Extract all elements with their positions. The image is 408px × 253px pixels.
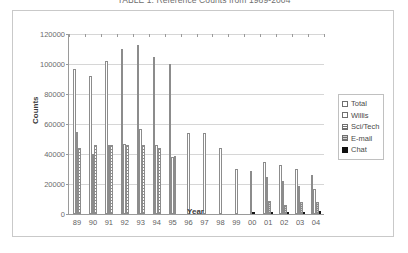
- x-axis-tick-label: 90: [89, 218, 97, 227]
- legend-item: Chat: [342, 144, 379, 156]
- x-axis-tick-mark: [117, 34, 118, 37]
- legend-swatch-icon: [342, 112, 348, 118]
- bar-group: [69, 34, 85, 214]
- x-axis-tick-label: 93: [137, 218, 145, 227]
- bar: [203, 133, 206, 214]
- y-axis-tick-label: 20000: [44, 180, 65, 189]
- bar-group: [181, 34, 197, 214]
- bar: [126, 145, 129, 214]
- x-axis-tick-mark: [197, 34, 198, 37]
- bar-group: [85, 34, 101, 214]
- x-axis-tick-label: 98: [216, 218, 224, 227]
- x-axis-tick-mark: [85, 34, 86, 37]
- y-axis-label: Counts: [31, 96, 40, 124]
- x-axis-tick-label: 95: [168, 218, 176, 227]
- bar-group: [117, 34, 133, 214]
- bar: [187, 133, 190, 214]
- bar: [110, 145, 113, 214]
- legend-item: Willis: [342, 110, 379, 122]
- x-axis-tick-label: 91: [105, 218, 113, 227]
- x-axis-tick-mark: [212, 34, 213, 37]
- y-axis-tick-label: 100000: [40, 60, 65, 69]
- y-axis-tick-label: 60000: [44, 120, 65, 129]
- x-axis-tick-label: 96: [184, 218, 192, 227]
- legend-swatch-icon: [342, 101, 348, 107]
- x-axis-tick-mark: [308, 34, 309, 37]
- bar-group: [276, 34, 292, 214]
- bar-group: [244, 34, 260, 214]
- x-axis-tick-label: 04: [312, 218, 320, 227]
- bar-group: [308, 34, 324, 214]
- legend-swatch-icon: [342, 124, 348, 130]
- x-axis-tick-mark: [181, 34, 182, 37]
- legend-swatch-icon: [342, 147, 348, 153]
- legend-label: Chat: [351, 145, 367, 154]
- x-axis-tick-mark: [69, 34, 70, 37]
- x-axis-tick-label: 97: [200, 218, 208, 227]
- y-axis-tick-label: 80000: [44, 90, 65, 99]
- legend-swatch-icon: [342, 135, 348, 141]
- x-axis-tick-label: 89: [73, 218, 81, 227]
- legend-label: Total: [351, 99, 367, 108]
- x-axis-tick-mark: [149, 34, 150, 37]
- y-axis-tick-label: 0: [61, 210, 65, 219]
- bar-group: [133, 34, 149, 214]
- chart-root: TABLE 1: Reference Counts from 1989-2004…: [0, 0, 408, 253]
- y-axis-tick-label: 120000: [40, 30, 65, 39]
- y-axis-tick-label: 40000: [44, 150, 65, 159]
- x-axis-tick-label: 99: [232, 218, 240, 227]
- bar: [78, 148, 81, 214]
- x-axis-tick-label: 01: [264, 218, 272, 227]
- x-axis-tick-label: 92: [121, 218, 129, 227]
- bar-group: [101, 34, 117, 214]
- chart-legend: TotalWillisSci/TechE-mailChat: [338, 94, 384, 160]
- x-axis-tick-mark: [292, 34, 293, 37]
- bar-group: [228, 34, 244, 214]
- bar-group: [197, 34, 213, 214]
- x-axis-tick-mark: [260, 34, 261, 37]
- bar-group: [260, 34, 276, 214]
- legend-label: Willis: [351, 111, 369, 120]
- x-axis-tick-mark: [228, 34, 229, 37]
- x-axis-tick-label: 03: [296, 218, 304, 227]
- bar-group: [292, 34, 308, 214]
- x-axis-tick-mark: [133, 34, 134, 37]
- bar: [142, 145, 145, 214]
- bar-group: [165, 34, 181, 214]
- bar: [174, 156, 177, 215]
- bar-group: [149, 34, 165, 214]
- plot-area: 0200004000060000800001000001200008990919…: [68, 34, 324, 215]
- bar: [94, 145, 97, 214]
- x-axis-tick-label: 00: [248, 218, 256, 227]
- legend-item: E-mail: [342, 133, 379, 145]
- x-axis-tick-mark: [324, 34, 325, 37]
- legend-label: Sci/Tech: [351, 122, 379, 131]
- chart-title: TABLE 1: Reference Counts from 1989-2004: [0, 0, 408, 5]
- x-axis-tick-label: 94: [152, 218, 160, 227]
- x-axis-tick-mark: [276, 34, 277, 37]
- legend-label: E-mail: [351, 134, 372, 143]
- bar: [219, 148, 222, 214]
- x-axis-tick-mark: [244, 34, 245, 37]
- legend-item: Sci/Tech: [342, 121, 379, 133]
- legend-item: Total: [342, 98, 379, 110]
- x-axis-tick-mark: [165, 34, 166, 37]
- x-axis-tick-label: 02: [280, 218, 288, 227]
- bar: [158, 148, 161, 214]
- x-axis-tick-mark: [101, 34, 102, 37]
- bar-group: [212, 34, 228, 214]
- x-axis-label: Year: [68, 207, 323, 216]
- chart-frame: Counts 020000400006000080000100000120000…: [12, 10, 394, 237]
